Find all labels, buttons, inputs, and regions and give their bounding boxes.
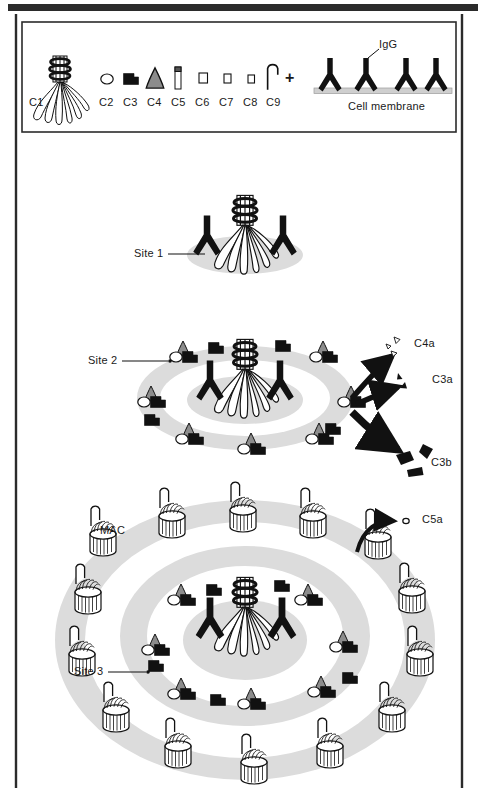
site2-label: Site 2 — [88, 354, 117, 366]
c2-oval-icon — [101, 74, 113, 84]
c5a-label: C5a — [422, 513, 443, 525]
complement-cascade-figure: C1 C2 C3 C4 C5 C6 C7 C8 C9 + IgG Cell me… — [0, 0, 490, 792]
c5a-fragment — [403, 518, 409, 523]
mac-pore — [365, 509, 391, 559]
c5-capped-cylinder-icon — [175, 67, 181, 89]
c6-square-icon — [199, 73, 208, 83]
legend-label-c1: C1 — [29, 96, 43, 108]
site3-label: Site 3 — [74, 665, 103, 677]
legend-label-c2: C2 — [99, 96, 113, 108]
c3a-label: C3a — [432, 373, 453, 385]
cell-membrane-label: Cell membrane — [348, 100, 425, 112]
mac-pore — [399, 563, 425, 613]
c3a-fragments — [392, 373, 407, 390]
c3b-label: C3b — [431, 456, 452, 468]
c3b-arrow — [352, 412, 398, 450]
igg-label: IgG — [379, 38, 397, 50]
site1-label: Site 1 — [134, 247, 163, 259]
legend-label-c9: C9 — [266, 96, 280, 108]
c3b-fragments — [396, 444, 433, 477]
c4a-label: C4a — [414, 337, 435, 349]
legend-label-c3: C3 — [123, 96, 137, 108]
c7-square-icon — [224, 74, 231, 83]
mac-pore — [159, 488, 185, 538]
site2-cleavage-arrows — [352, 356, 398, 450]
site1-panel — [168, 195, 303, 274]
c4a-fragments — [386, 337, 400, 357]
page-top-rule — [8, 4, 478, 11]
site1-c1-molecule — [215, 195, 279, 274]
mac-label: MAC — [100, 524, 125, 536]
legend-label-c6: C6 — [195, 96, 209, 108]
c8-square-icon — [248, 75, 255, 83]
plus-sign: + — [285, 69, 295, 87]
mac-pore — [230, 482, 256, 532]
cell-membrane-bar — [314, 88, 452, 94]
legend-label-c4: C4 — [147, 96, 161, 108]
legend-label-c8: C8 — [243, 96, 257, 108]
site2-panel — [122, 337, 433, 477]
legend-label-c7: C7 — [219, 96, 233, 108]
legend-label-c5: C5 — [171, 96, 185, 108]
mac-pore — [300, 488, 326, 538]
